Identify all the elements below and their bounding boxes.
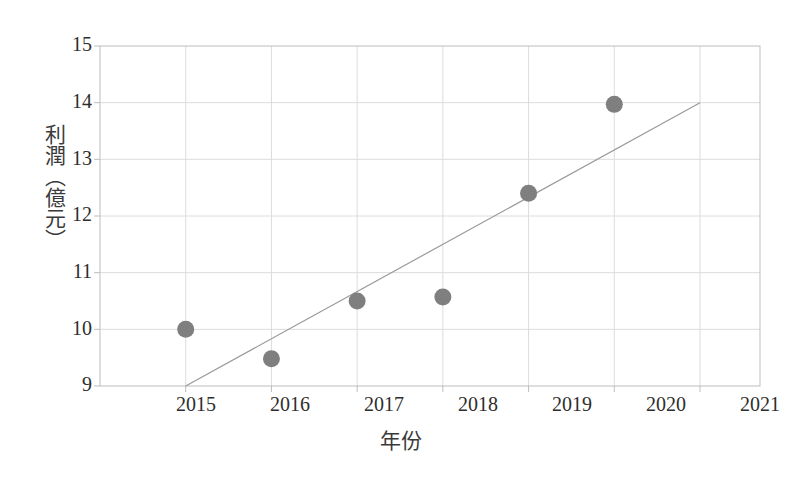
data-point (177, 321, 194, 338)
data-point (263, 350, 280, 367)
data-point (349, 293, 366, 310)
data-point-markers (177, 96, 623, 367)
grid-lines (100, 46, 760, 386)
data-point (434, 289, 451, 306)
chart-figure: 利潤（億元） 15 14 13 12 11 10 9 2015 2016 201… (0, 0, 801, 478)
plot-canvas (0, 0, 801, 478)
data-point (520, 185, 537, 202)
data-point (606, 96, 623, 113)
